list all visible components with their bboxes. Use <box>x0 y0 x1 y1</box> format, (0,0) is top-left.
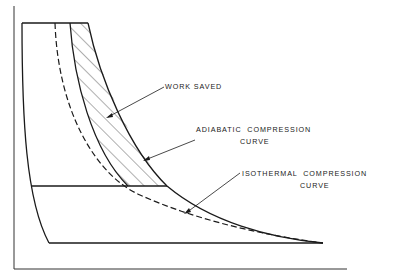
isothermal-label-line1: ISOTHERMAL COMPRESSION <box>242 169 367 178</box>
work-saved-leader <box>108 87 164 117</box>
adiabatic-label-line1: ADIABATIC COMPRESSION <box>196 125 311 134</box>
left-expansion-curve <box>22 23 49 243</box>
adiabatic-label-line2: CURVE <box>240 137 270 146</box>
compression-diagram: WORK SAVED ADIABATIC COMPRESSION CURVE I… <box>0 0 402 280</box>
arrowhead-icon <box>184 208 191 214</box>
isothermal-leader <box>186 173 240 213</box>
adiabatic-leader <box>145 140 195 160</box>
isothermal-label-line2: CURVE <box>300 181 330 190</box>
work-saved-label: WORK SAVED <box>165 82 222 91</box>
